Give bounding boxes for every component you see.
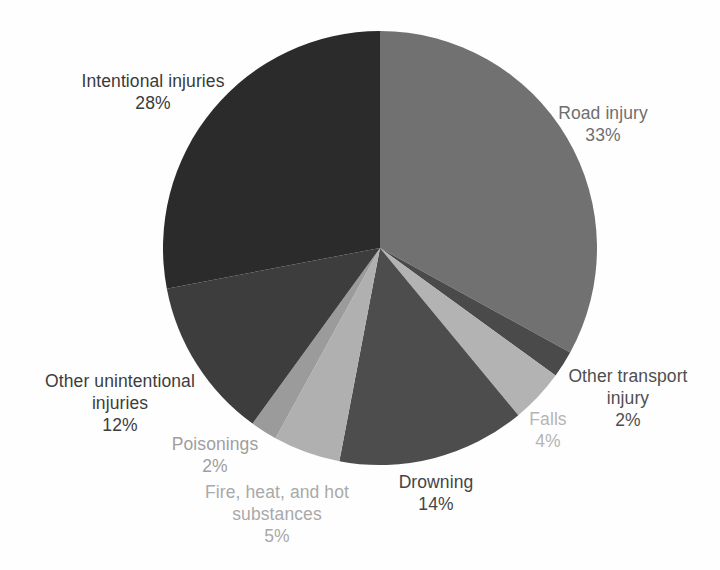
slice-percent-text: 5% (202, 525, 352, 547)
pie-chart-figure: Road injury 33% Other transport injury 2… (0, 0, 720, 570)
slice-label-drowning: Drowning 14% (366, 471, 506, 515)
slice-percent-text: 28% (63, 92, 243, 114)
slice-label-road-injury: Road injury 33% (533, 102, 673, 146)
slice-label-other-unintentional-injuries: Other unintentional injuries 12% (37, 370, 203, 436)
slice-label-text: Other unintentional injuries (45, 371, 195, 413)
slice-label-intentional-injuries: Intentional injuries 28% (63, 70, 243, 114)
slice-label-text: Drowning (399, 472, 474, 492)
slice-label-text: Fire, heat, and hot substances (205, 482, 349, 524)
slice-percent-text: 4% (498, 430, 598, 452)
slice-percent-text: 14% (366, 493, 506, 515)
slice-label-text: Other transport injury (568, 366, 687, 408)
slice-label-text: Intentional injuries (81, 71, 224, 91)
slice-label-falls: Falls 4% (498, 408, 598, 452)
slice-label-fire-heat-hot-substances: Fire, heat, and hot substances 5% (202, 481, 352, 547)
slice-percent-text: 33% (533, 124, 673, 146)
slice-percent-text: 12% (37, 414, 203, 436)
slice-label-text: Road injury (558, 103, 648, 123)
slice-label-text: Falls (529, 409, 566, 429)
slice-percent-text: 2% (155, 455, 275, 477)
slice-label-text: Poisonings (172, 434, 259, 454)
slice-label-poisonings: Poisonings 2% (155, 433, 275, 477)
